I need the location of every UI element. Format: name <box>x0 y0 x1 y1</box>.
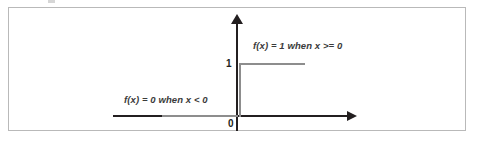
annotation-positive-branch: f(x) = 1 when x >= 0 <box>253 41 342 51</box>
x-axis-arrowhead-icon <box>347 111 357 121</box>
origin-tick-label-zero: 0 <box>228 119 234 129</box>
y-axis-tick-label-one: 1 <box>226 59 232 69</box>
step-function-figure: 1 0 f(x) = 1 when x >= 0 f(x) = 0 when x… <box>0 0 479 144</box>
scan-artifact <box>48 0 55 3</box>
curve-segment-riser <box>239 64 241 117</box>
curve-segment-right <box>239 63 305 65</box>
curve-segment-left <box>162 115 238 117</box>
y-axis-arrowhead-icon <box>231 14 243 24</box>
annotation-negative-branch: f(x) = 0 when x < 0 <box>124 95 208 105</box>
